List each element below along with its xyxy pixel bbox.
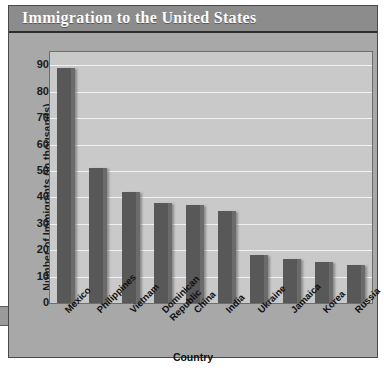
gridline-70: [50, 118, 372, 119]
chart-title-bar: Immigration to the United States: [9, 6, 377, 33]
y-tick-label: 40: [23, 190, 49, 202]
y-tick-label: 50: [23, 164, 49, 176]
plot-area: [49, 51, 373, 304]
y-tick-label: 90: [23, 58, 49, 70]
chart-figure: Immigration to the United States Number …: [8, 5, 378, 358]
gridline-90: [50, 65, 372, 66]
y-tick-label: 80: [23, 85, 49, 97]
y-tick-label: 60: [23, 138, 49, 150]
x-axis-title: Country: [9, 351, 377, 363]
y-tick-label: 70: [23, 111, 49, 123]
bar-highlight: [232, 211, 236, 304]
y-tick-label: 10: [23, 270, 49, 282]
y-tick-label: 0: [23, 296, 49, 308]
bar-highlight: [103, 168, 107, 303]
y-tick-label: 20: [23, 243, 49, 255]
bar-highlight: [168, 203, 172, 303]
bar: [57, 68, 75, 303]
gridline-80: [50, 92, 372, 93]
bar-highlight: [71, 68, 75, 303]
bar: [89, 168, 107, 303]
bar: [218, 211, 236, 304]
y-axis-tick-labels: 0102030405060708090: [23, 33, 49, 333]
page-title: Immigration to the United States: [22, 9, 256, 27]
chart-plot-region: Number of Immigrants (in thousands) 0102…: [9, 33, 377, 357]
bar-highlight: [136, 192, 140, 303]
gridline-60: [50, 145, 372, 146]
y-tick-label: 30: [23, 217, 49, 229]
